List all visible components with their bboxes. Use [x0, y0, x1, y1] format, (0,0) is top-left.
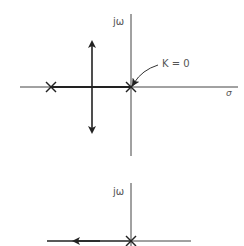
top-plot: jω K = 0 σ: [20, 14, 238, 156]
bottom-imag-axis-label: jω: [112, 186, 124, 197]
root-locus-diagram: jω K = 0 σ jω: [0, 0, 244, 246]
k0-annotation: K = 0: [162, 58, 190, 69]
top-imag-axis-label: jω: [112, 16, 124, 27]
k0-pointer-arrow: [134, 65, 158, 83]
bottom-plot: jω: [47, 183, 191, 246]
real-axis-label: σ: [226, 88, 232, 98]
